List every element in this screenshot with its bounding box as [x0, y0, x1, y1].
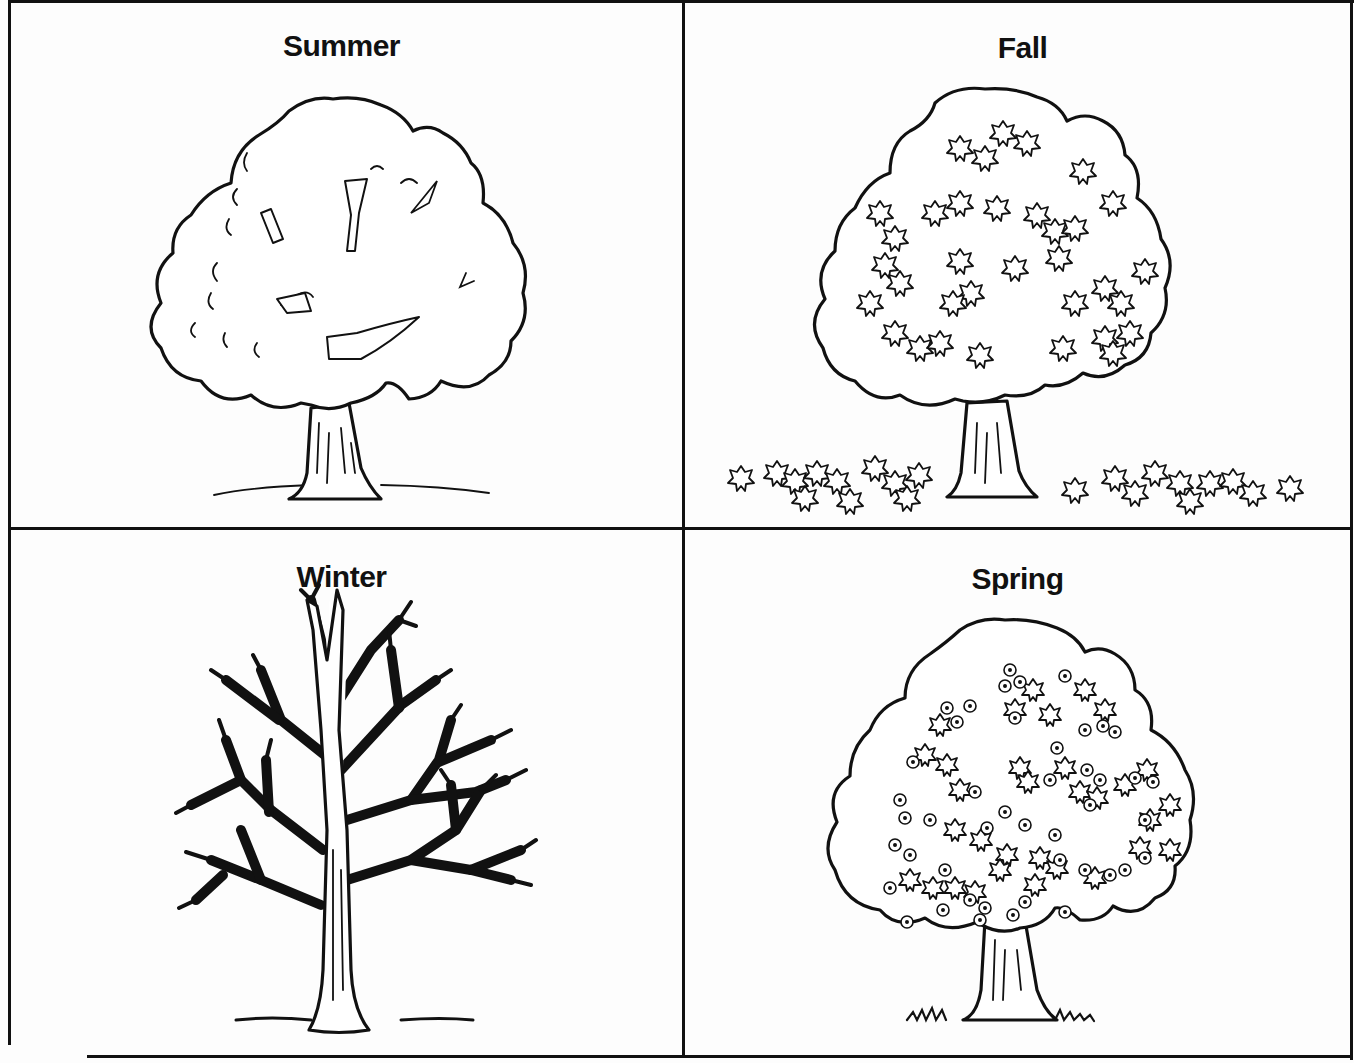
bare-tree-icon: [11, 530, 682, 1055]
border-bottom: [87, 1055, 1353, 1058]
panel-summer: Summer: [11, 3, 682, 527]
blossoming-tree-icon: [685, 530, 1350, 1055]
panel-winter: Winter: [11, 530, 682, 1055]
seasons-worksheet: Summer Fall: [0, 0, 1354, 1063]
tree-full-foliage-icon: [11, 3, 682, 527]
tree-with-falling-leaves-icon: [685, 3, 1350, 527]
border-right: [1350, 0, 1353, 1060]
panel-fall: Fall: [685, 3, 1350, 527]
panel-spring: Spring: [685, 530, 1350, 1055]
